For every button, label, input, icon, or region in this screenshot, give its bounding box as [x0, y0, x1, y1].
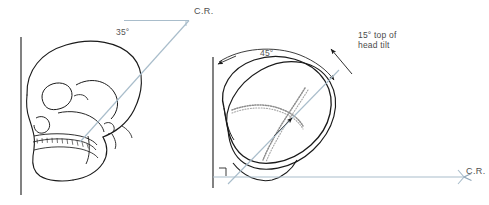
nasal-aperture — [34, 117, 50, 134]
cranium-outline-superior — [223, 57, 332, 164]
angle-label-45: 45° — [260, 48, 273, 58]
sphenoid-arc — [74, 95, 88, 100]
skull-positioning-diagram: 35° C.R. 45° 15° top ofhead tilt C.R. — [0, 0, 489, 205]
auditory-meatus — [104, 123, 114, 134]
rotation-arc-45deg — [219, 49, 334, 80]
diagram-svg — [0, 0, 489, 205]
mastoid-process — [112, 134, 116, 149]
facial-profile-outline — [27, 95, 73, 181]
head-tilt-leader-arrow — [331, 49, 352, 74]
cr-label-right: C.R. — [466, 166, 486, 177]
sagittal-suture-shadow — [266, 90, 308, 162]
right-angle-marker — [219, 168, 226, 176]
orbit-outline — [42, 83, 72, 110]
occipital-detail — [122, 126, 132, 138]
mandible-ramus — [86, 136, 89, 164]
head-tilt-label-line1: 15° top of — [358, 30, 396, 40]
sagittal-suture — [263, 88, 305, 160]
head-tilt-label: 15° top ofhead tilt — [358, 30, 396, 50]
tilt-axis-arrow — [274, 118, 292, 136]
zygomatic-arch — [58, 112, 104, 132]
superior-skull-group — [213, 49, 464, 188]
mandible-outline — [73, 137, 107, 180]
cr-label-left: C.R. — [194, 6, 214, 17]
head-tilt-label-line2: head tilt — [358, 40, 390, 50]
lateral-skull-group — [21, 21, 189, 196]
angle-label-35: 35° — [116, 27, 129, 37]
cranium-contour-tilted — [227, 62, 336, 170]
